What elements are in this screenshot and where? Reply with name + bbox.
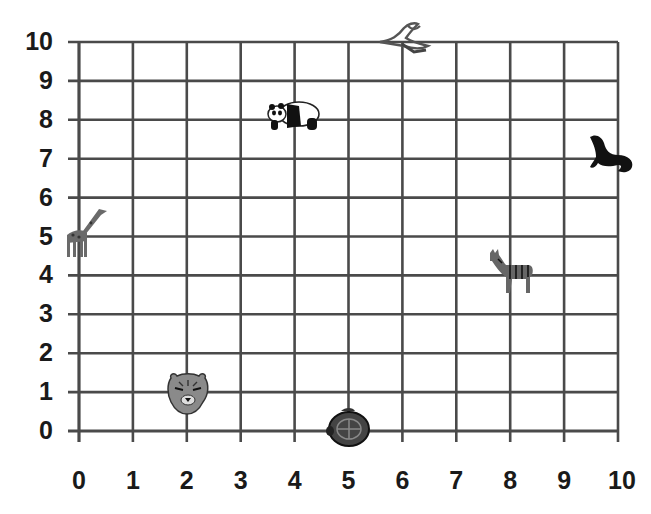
x-tick-label: 5 [329,468,369,493]
x-tick-label: 1 [113,468,153,493]
y-tick-label: 0 [3,418,53,443]
x-tick-label: 7 [436,468,476,493]
seal-icon [584,131,636,175]
x-tick-label: 9 [544,468,584,493]
y-tick-label: 10 [3,29,53,54]
x-tick-label: 3 [221,468,261,493]
y-tick-label: 2 [3,340,53,365]
x-tick-label: 0 [59,468,99,493]
y-tick-label: 9 [3,68,53,93]
y-tick-label: 5 [3,224,53,249]
y-tick-label: 6 [3,185,53,210]
tiger-icon [165,370,211,416]
x-tick-label: 10 [602,468,642,493]
x-tick-label: 4 [275,468,315,493]
y-tick-label: 3 [3,301,53,326]
zebra-icon [484,247,536,299]
x-tick-label: 6 [382,468,422,493]
y-tick-label: 7 [3,146,53,171]
turtle-icon [325,405,371,449]
giraffe-icon [63,205,107,259]
y-tick-label: 8 [3,107,53,132]
y-tick-label: 1 [3,379,53,404]
x-tick-label: 8 [490,468,530,493]
bird-icon [374,20,436,56]
y-tick-label: 4 [3,262,53,287]
panda-icon [265,98,323,132]
coordinate-grid-chart: 012345678910 012345678910 [0,0,651,514]
x-tick-label: 2 [167,468,207,493]
